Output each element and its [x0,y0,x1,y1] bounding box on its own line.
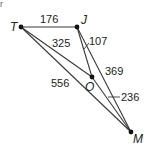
vertex-label-O: O [85,80,94,94]
edge-label-JO: 107 [89,35,107,47]
corner-mark: r [0,0,3,9]
edge-label-OM: 236 [121,91,139,103]
network-diagram: r T J O M 176 325 107 369 556 236 [0,0,149,150]
edge-TM [21,27,131,132]
point-T [19,25,24,30]
edge-label-JM: 369 [105,65,123,77]
vertex-label-M: M [133,132,143,146]
edge-OM [92,77,131,132]
point-J [75,25,80,30]
point-O [90,75,95,80]
vertex-label-J: J [80,13,88,27]
edge-label-TM: 556 [51,77,69,89]
edge-label-TJ: 176 [40,13,58,25]
edge-label-TO: 325 [52,37,70,49]
vertex-label-T: T [10,20,19,34]
